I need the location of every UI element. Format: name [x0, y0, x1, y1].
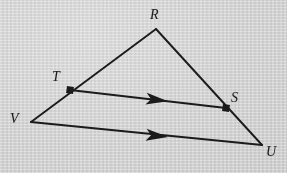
geometry-diagram — [0, 0, 287, 173]
segment-rv — [31, 29, 156, 122]
segment-ru — [156, 29, 262, 145]
point-marker-t — [66, 86, 74, 94]
vertex-label-s: S — [231, 91, 238, 105]
geometry-figure: R T S V U — [0, 0, 287, 173]
vertex-label-u: U — [266, 145, 276, 159]
vu-parallel-arrow-icon — [145, 129, 168, 143]
segment-vu — [31, 122, 262, 145]
vertex-label-r: R — [150, 8, 159, 22]
vertex-label-t: T — [52, 70, 60, 84]
point-marker-s — [222, 104, 230, 112]
segment-ts — [70, 90, 226, 108]
vertex-label-v: V — [10, 112, 19, 126]
